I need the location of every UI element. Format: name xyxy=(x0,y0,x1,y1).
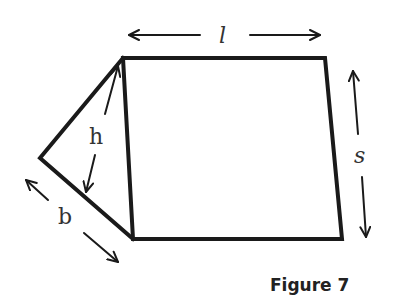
side-arrow-down xyxy=(362,177,366,237)
side-dimension: s xyxy=(353,71,366,237)
length-label: l xyxy=(219,23,226,48)
side-arrow-up xyxy=(353,71,358,134)
base-arrow-left xyxy=(26,180,48,200)
base-label: b xyxy=(58,204,72,229)
rectangle-face xyxy=(123,58,342,239)
base-arrow-right xyxy=(84,233,118,262)
base-dimension: b xyxy=(26,180,118,262)
height-label: h xyxy=(89,124,103,149)
triangle-face xyxy=(40,58,133,239)
figure-7-diagram: l s h b Figure 7 xyxy=(0,0,395,298)
length-dimension: l xyxy=(129,23,320,48)
figure-caption: Figure 7 xyxy=(270,275,349,295)
height-arrow-down xyxy=(86,155,95,192)
side-label: s xyxy=(354,143,365,168)
